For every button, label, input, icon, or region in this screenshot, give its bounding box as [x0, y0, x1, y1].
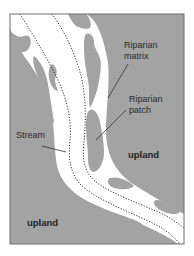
label-riparian-matrix-line1: Riparian [124, 40, 158, 50]
riparian-diagram: Riparian matrix Riparian patch Stream up… [0, 0, 194, 256]
label-riparian-matrix-line2: matrix [124, 51, 149, 61]
label-upland-right: upland [128, 149, 159, 160]
label-riparian-patch-line1: Riparian [129, 94, 163, 104]
label-riparian-patch-line2: patch [129, 105, 151, 115]
label-upland-left: upland [27, 217, 58, 228]
label-stream: Stream [16, 130, 45, 140]
